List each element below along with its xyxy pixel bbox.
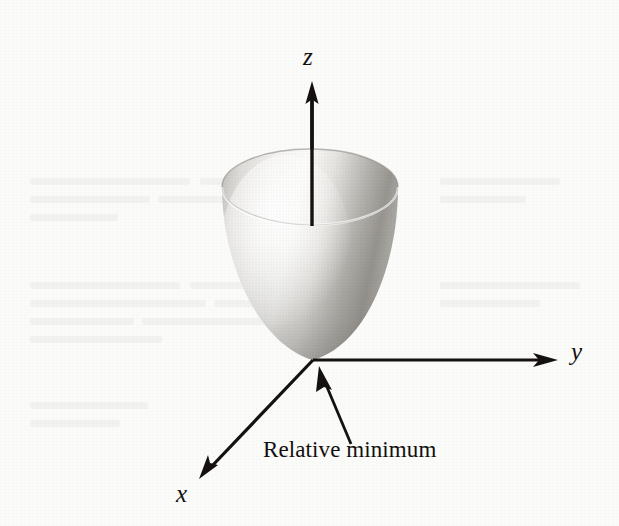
figure-root: z y x Relative minimum <box>0 0 619 526</box>
x-axis-arrowhead <box>199 455 218 479</box>
y-axis <box>313 353 558 367</box>
relative-minimum-annotation-label: Relative minimum <box>263 437 436 463</box>
callout-arrowhead <box>316 366 332 392</box>
callout-leader-arrow <box>316 366 351 444</box>
x-axis-label: x <box>176 481 187 506</box>
z-axis-label: z <box>303 44 313 69</box>
y-axis-label: y <box>571 339 582 364</box>
